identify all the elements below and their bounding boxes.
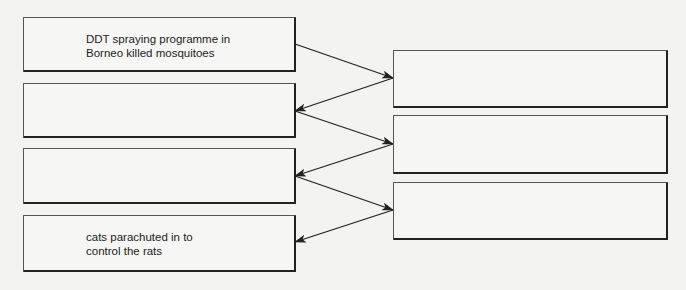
left-box-2[interactable] bbox=[23, 83, 296, 138]
left-box-1-text: DDT spraying programme in Borneo killed … bbox=[86, 32, 230, 60]
left-box-4: cats parachuted in to control the rats bbox=[23, 215, 296, 272]
arrow-l2-to-r2 bbox=[295, 111, 393, 144]
right-box-1[interactable] bbox=[393, 50, 668, 108]
left-box-4-text: cats parachuted in to control the rats bbox=[86, 230, 193, 258]
right-box-3[interactable] bbox=[393, 182, 668, 240]
arrow-l3-to-r3 bbox=[295, 176, 393, 210]
arrow-r2-to-l3 bbox=[295, 144, 393, 176]
arrow-r1-to-l2 bbox=[295, 78, 393, 111]
arrow-l1-to-r1 bbox=[295, 44, 393, 78]
left-box-3[interactable] bbox=[23, 148, 296, 204]
right-box-2[interactable] bbox=[393, 115, 668, 174]
arrow-r3-to-l4 bbox=[295, 210, 393, 242]
left-box-1: DDT spraying programme in Borneo killed … bbox=[23, 17, 296, 72]
